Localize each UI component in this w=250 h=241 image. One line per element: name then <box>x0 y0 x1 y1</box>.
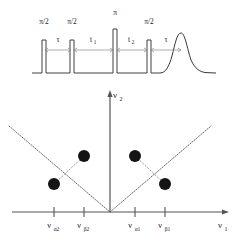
tick-label-4-base: ν <box>158 221 162 230</box>
x-axis-label-sub: 1 <box>225 226 228 232</box>
data-point-2[interactable] <box>78 150 90 162</box>
tick-label-1-base: ν <box>47 221 51 230</box>
x-axis-label-base: ν <box>218 220 222 230</box>
data-point-1[interactable] <box>48 178 60 190</box>
delay-label-tau-2: τ <box>165 35 168 44</box>
data-point-3[interactable] <box>129 150 141 162</box>
delay-label-t2: t 2 <box>128 35 135 45</box>
anti-diagonal-line <box>9 126 110 212</box>
tick-label-3-base: ν <box>128 221 132 230</box>
tick-label-4: ν β1 <box>158 221 170 232</box>
peak-connector-left <box>54 156 84 184</box>
tick-label-3-sub: α1 <box>135 226 141 232</box>
delay-label-t1-base: t <box>90 35 93 44</box>
echo-signal-curve <box>160 33 216 73</box>
spectrum-plot: ν 2 ν 1 ν α2 ν β2 ν α1 ν β <box>9 90 229 232</box>
data-point-4[interactable] <box>159 178 171 190</box>
delay-label-t2-sub: 2 <box>132 39 135 45</box>
tick-label-3: ν α1 <box>128 221 140 232</box>
delay-label-t1: t 1 <box>90 35 97 45</box>
tick-label-4-sub: β1 <box>165 226 171 232</box>
pulse-label-1: π/2 <box>39 17 49 26</box>
pulse-train-baseline <box>32 29 160 73</box>
y-axis-arrowhead <box>107 90 112 97</box>
y-axis-label-base: ν <box>113 90 117 100</box>
delay-label-t1-sub: 1 <box>94 39 97 45</box>
pulse-label-2: π/2 <box>67 17 77 26</box>
x-axis-arrowhead <box>222 209 229 214</box>
figure-svg: π/2 π/2 π π/2 τ t 1 t 2 τ <box>0 0 250 241</box>
tick-label-1-sub: α2 <box>54 226 60 232</box>
pulse-label-3: π <box>113 8 117 17</box>
tick-label-2-sub: β2 <box>84 226 90 232</box>
peak-connector-right <box>135 156 165 184</box>
figure-container: π/2 π/2 π π/2 τ t 1 t 2 τ <box>0 0 250 241</box>
tick-label-2-base: ν <box>77 221 81 230</box>
x-axis-label: ν 1 <box>218 220 228 232</box>
pulse-label-4: π/2 <box>144 17 154 26</box>
tick-label-1: ν α2 <box>47 221 59 232</box>
tick-label-2: ν β2 <box>77 221 89 232</box>
delay-label-t2-base: t <box>128 35 131 44</box>
diagonal-line <box>110 126 211 212</box>
y-axis-label-sub: 2 <box>120 96 123 102</box>
y-axis-label: ν 2 <box>113 90 123 102</box>
delay-label-tau-1: τ <box>57 35 60 44</box>
nmr-pulse-sequence: π/2 π/2 π π/2 τ t 1 t 2 τ <box>32 8 216 73</box>
